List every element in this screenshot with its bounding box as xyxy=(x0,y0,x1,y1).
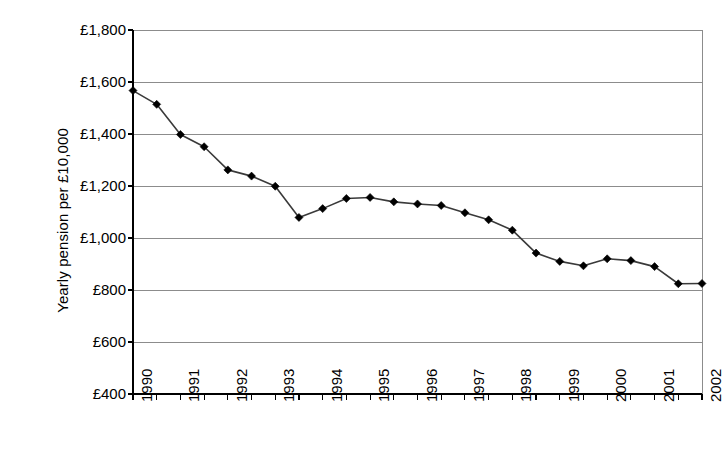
data-point-marker: 1997.0: £1,097 xyxy=(461,209,469,217)
data-point-marker: 2000.5: £913 xyxy=(627,257,635,265)
gridlines xyxy=(133,30,702,394)
chart-container: Yearly pension per £10,000 £1,800£1,600£… xyxy=(0,0,722,473)
data-point-marker: 1994.5: £1,152 xyxy=(342,194,350,202)
data-point-marker: 1994.0: £1,113 xyxy=(319,205,327,213)
axis-lines xyxy=(133,30,702,394)
data-point-marker: 2000.0: £920 xyxy=(603,255,611,263)
data-point-marker: 2002.0: £825 xyxy=(698,280,706,288)
data-point-marker: 1996.5: £1,125 xyxy=(437,202,445,210)
data-point-marker: 1997.5: £1,070 xyxy=(485,216,493,224)
data-series-markers: 1990.0: £1,5671990.5: £1,5141991.0: £1,3… xyxy=(129,87,706,288)
series-polyline xyxy=(133,91,702,284)
data-point-marker: 1995.0: £1,156 xyxy=(366,193,374,201)
x-axis-ticks xyxy=(133,394,702,400)
data-point-marker: 1995.5: £1,139 xyxy=(390,198,398,206)
data-point-marker: 1992.5: £1,238 xyxy=(248,172,256,180)
plot-area: 1990.0: £1,5671990.5: £1,5141991.0: £1,3… xyxy=(0,0,722,473)
data-point-marker: 1996.0: £1,131 xyxy=(414,200,422,208)
data-point-marker: 1999.0: £910 xyxy=(556,257,564,265)
data-series-line xyxy=(133,91,702,284)
data-point-marker: 1990.0: £1,567 xyxy=(129,87,137,95)
y-axis-ticks xyxy=(128,30,133,394)
data-point-marker: 1999.5: £893 xyxy=(579,262,587,270)
